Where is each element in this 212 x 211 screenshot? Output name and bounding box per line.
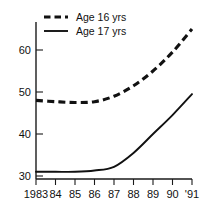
line-chart: Age 16 yrs Age 17 yrs 60 50 40 30 1983 8… <box>0 0 212 211</box>
series-line-age-16 <box>36 29 192 103</box>
y-tick-label-40: 40 <box>9 129 31 140</box>
y-axis-ticks <box>36 50 43 176</box>
legend-label-age-16: Age 16 yrs <box>76 12 126 23</box>
series-line-age-17 <box>36 94 192 172</box>
x-tick-label-91: '91 <box>180 189 205 200</box>
legend-label-age-17: Age 17 yrs <box>76 26 126 37</box>
y-tick-label-30: 30 <box>9 171 31 182</box>
y-tick-label-50: 50 <box>9 87 31 98</box>
x-axis-ticks <box>36 179 192 185</box>
y-tick-label-60: 60 <box>9 45 31 56</box>
